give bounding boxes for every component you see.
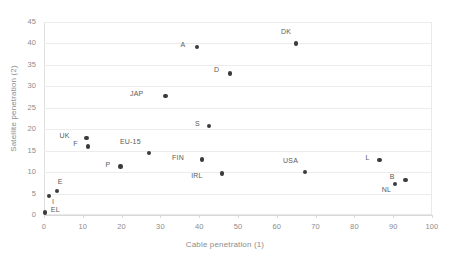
gridline <box>44 108 432 109</box>
data-point-label: IRL <box>191 172 203 179</box>
data-point-label: EL <box>51 206 60 213</box>
gridline <box>44 151 432 152</box>
data-point <box>294 41 298 45</box>
x-tick-label: 90 <box>378 222 408 231</box>
x-tick-label: 0 <box>29 222 59 231</box>
x-tick-mark <box>199 215 200 218</box>
x-tick-mark <box>44 215 45 218</box>
data-point <box>118 164 122 168</box>
x-tick-mark <box>393 215 394 218</box>
data-point <box>86 144 90 148</box>
data-point-label: F <box>73 140 77 147</box>
x-tick-label: 30 <box>145 222 175 231</box>
data-point <box>377 158 381 162</box>
data-point-label: DK <box>281 28 291 35</box>
plot-area <box>44 22 432 215</box>
x-tick-label: 80 <box>339 222 369 231</box>
data-point-label: FIN <box>172 154 184 161</box>
y-tick-label: 0 <box>8 210 36 219</box>
x-tick-mark <box>316 215 317 218</box>
data-point <box>163 94 167 98</box>
y-tick-label: 45 <box>8 17 36 26</box>
data-point <box>200 157 204 161</box>
x-tick-mark <box>122 215 123 218</box>
x-tick-mark <box>83 215 84 218</box>
y-axis-line <box>44 22 45 216</box>
gridline <box>44 129 432 130</box>
x-tick-label: 20 <box>107 222 137 231</box>
data-point-label: B <box>390 173 395 180</box>
data-point-label: EU-15 <box>120 138 141 145</box>
data-point <box>220 171 224 175</box>
data-point <box>207 124 211 128</box>
x-tick-label: 60 <box>262 222 292 231</box>
y-axis-title: Satellite penetration (2) <box>9 44 18 174</box>
data-point <box>84 136 88 140</box>
x-tick-label: 40 <box>184 222 214 231</box>
data-point-label: E <box>58 178 63 185</box>
x-tick-mark <box>238 215 239 218</box>
data-point <box>147 151 151 155</box>
data-point-label: D <box>214 66 219 73</box>
gridline <box>44 172 432 173</box>
x-tick-label: 70 <box>301 222 331 231</box>
data-point <box>43 210 47 214</box>
x-tick-mark <box>354 215 355 218</box>
scatter-chart: 051015202530354045 010203040506070809010… <box>0 0 450 261</box>
y-tick-label: 5 <box>8 189 36 198</box>
x-tick-mark <box>160 215 161 218</box>
gridline <box>44 86 432 87</box>
x-tick-mark <box>277 215 278 218</box>
data-point-label: A <box>180 41 185 48</box>
data-point-label: JAP <box>130 90 143 97</box>
data-point-label: S <box>195 120 200 127</box>
data-point-label: NL <box>382 186 391 193</box>
x-tick-label: 10 <box>68 222 98 231</box>
gridline <box>44 65 432 66</box>
data-point <box>403 178 407 182</box>
gridline <box>44 43 432 44</box>
x-tick-label: 100 <box>417 222 447 231</box>
data-point-label: I <box>52 198 54 205</box>
data-point-label: P <box>106 161 111 168</box>
data-point-label: UK <box>60 132 70 139</box>
x-axis-title: Cable penetration (1) <box>0 240 450 249</box>
x-tick-label: 50 <box>223 222 253 231</box>
gridline <box>44 22 432 23</box>
data-point-label: USA <box>283 157 298 164</box>
gridline <box>44 194 432 195</box>
data-point-label: L <box>366 154 370 161</box>
x-tick-mark <box>432 215 433 218</box>
